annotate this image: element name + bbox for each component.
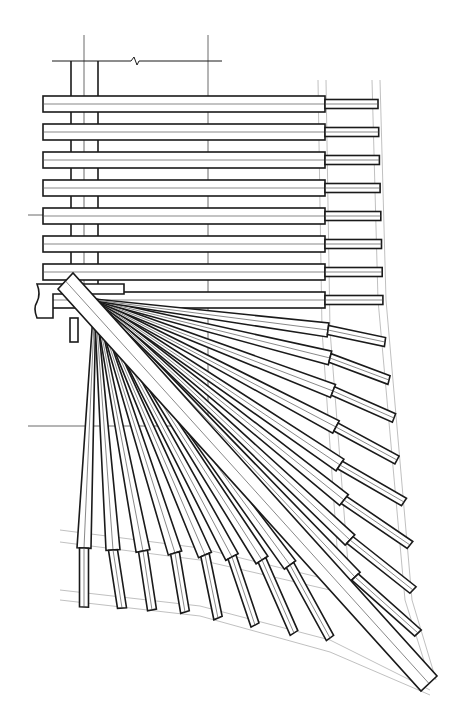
horizontal-rafter xyxy=(43,124,379,140)
bracket xyxy=(70,318,78,342)
fan-rafter-drawing xyxy=(0,0,464,706)
horizontal-rafter xyxy=(43,236,382,252)
fan-rafter-tail-centerline xyxy=(336,427,397,460)
fan-rafter-tail-centerline xyxy=(330,358,389,380)
fan-rafter xyxy=(77,300,96,607)
horizontal-rafter xyxy=(43,208,381,224)
top-plate-break-line xyxy=(52,57,222,65)
horizontal-rafter xyxy=(43,180,380,196)
fan-rafter-tail-centerline xyxy=(333,391,394,418)
fan-rafter-tail-centerline xyxy=(232,557,255,625)
horizontal-rafter xyxy=(43,264,382,280)
horizontal-rafter xyxy=(43,96,378,112)
horizontal-rafter xyxy=(43,152,379,168)
